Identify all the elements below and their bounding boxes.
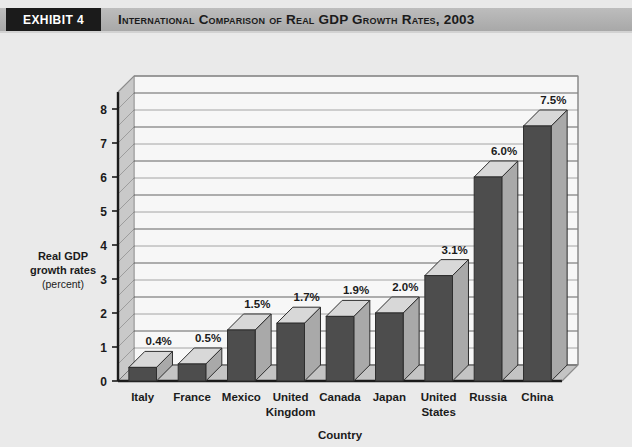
bar-front-face [326,316,354,381]
y-axis-tick-label: 1 [100,341,107,355]
bar-front-face [178,364,206,381]
bar-value-label: 3.1% [442,244,468,256]
bar-value-label: 1.9% [343,284,369,296]
bar-side-face [502,161,518,381]
category-label: Mexico [222,391,261,403]
bar-front-face [425,276,453,381]
bar-chart-plot: 0123456780.4%Italy0.5%France1.5%Mexico1.… [0,36,632,447]
bar-front-face [228,330,256,381]
y-axis-tick-label: 5 [100,205,107,219]
y-axis-tick-label: 8 [100,103,107,117]
category-label: Canada [319,391,361,403]
bar-side-face [452,260,468,381]
category-label: Russia [469,391,507,403]
category-label: China [521,391,554,403]
x-axis-title: Country [318,429,363,441]
bar-value-label: 0.5% [195,332,221,344]
category-label: Japan [373,391,406,403]
plot-left-wall [118,76,134,381]
category-label: United [421,391,457,403]
header-divider [0,31,632,33]
category-label: Kingdom [266,406,316,418]
bar-value-label: 0.4% [146,335,172,347]
bar-value-label: 2.0% [392,281,418,293]
y-axis-title: Real GDP growth rates (percent) [24,249,102,291]
exhibit-figure: EXHIBIT 4 International Comparison of Re… [0,0,632,447]
bar-value-label: 1.5% [244,298,270,310]
exhibit-title: International Comparison of Real GDP Gro… [118,8,475,31]
category-label: United [273,391,309,403]
bar-value-label: 6.0% [491,145,517,157]
bar-front-face [524,126,552,381]
y-axis-title-line1: Real GDP growth rates [24,249,102,277]
bar-front-face [474,177,502,381]
exhibit-header-bar: EXHIBIT 4 International Comparison of Re… [0,8,632,31]
y-axis-title-unit: (percent) [24,277,102,291]
exhibit-number-tab: EXHIBIT 4 [6,8,101,31]
y-axis-tick-label: 0 [100,375,107,389]
bar-value-label: 7.5% [540,94,566,106]
bar-front-face [376,313,404,381]
category-label: France [173,391,211,403]
bar-group: 7.5% [524,94,568,381]
exhibit-number-label: EXHIBIT 4 [23,13,84,27]
bar-front-face [129,367,157,381]
category-label: Italy [131,391,155,403]
y-axis-tick-label: 2 [100,307,107,321]
y-axis-tick-label: 7 [100,137,107,151]
category-label: States [421,406,456,418]
y-axis-tick-label: 6 [100,171,107,185]
chart-container: Real GDP growth rates (percent) 01234567… [0,36,632,447]
bar-side-face [551,110,567,381]
bar-group: 6.0% [474,145,518,381]
bar-value-label: 1.7% [294,291,320,303]
bar-front-face [277,323,305,381]
